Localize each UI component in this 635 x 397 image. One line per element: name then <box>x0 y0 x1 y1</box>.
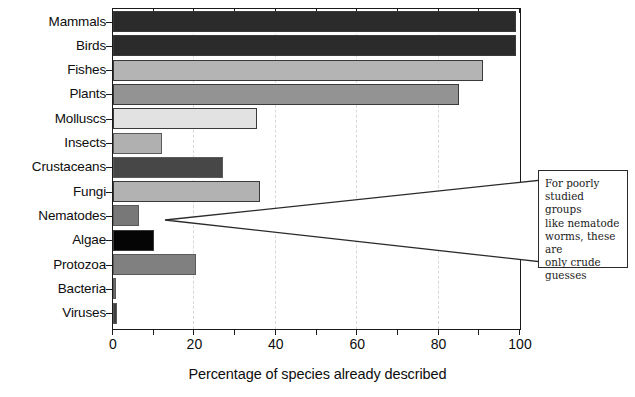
tick-top-100 <box>519 8 520 13</box>
category-label-fungi: Fungi <box>73 184 106 199</box>
category-label-protozoa: Protozoa <box>53 257 106 272</box>
tick-bottom-30 <box>234 330 235 335</box>
x-tick-label-0: 0 <box>109 336 117 352</box>
axis-line-right <box>520 8 521 330</box>
axis-line-bottom <box>112 329 521 330</box>
annotation-line: For poorly <box>545 177 622 190</box>
category-label-crustaceans: Crustaceans <box>32 159 106 174</box>
x-tick-label-60: 60 <box>349 336 365 352</box>
x-tick-label-20: 20 <box>187 336 203 352</box>
y-tick-protozoa <box>106 265 112 266</box>
bar-algae <box>113 230 154 251</box>
category-label-insects: Insects <box>64 135 106 150</box>
x-tick-label-40: 40 <box>268 336 284 352</box>
tick-bottom-40 <box>275 330 276 335</box>
bar-bacteria <box>113 278 116 299</box>
category-label-nematodes: Nematodes <box>38 208 106 223</box>
bar-molluscs <box>113 108 257 129</box>
x-tick-label-100: 100 <box>508 336 531 352</box>
x-axis-title: Percentage of species already described <box>0 366 635 382</box>
category-label-mammals: Mammals <box>49 14 106 29</box>
gridline-60 <box>356 9 357 329</box>
category-label-molluscs: Molluscs <box>55 111 106 126</box>
bar-nematodes <box>113 205 139 226</box>
y-tick-nematodes <box>106 216 112 217</box>
y-tick-fishes <box>106 70 112 71</box>
tick-bottom-80 <box>438 330 439 335</box>
callout-pointer-icon <box>160 180 542 272</box>
tick-bottom-20 <box>193 330 194 335</box>
annotation-line: worms, these are <box>545 230 622 256</box>
annotation-callout-box: For poorlystudied groupslike nematodewor… <box>538 170 628 268</box>
plot-area <box>112 8 521 330</box>
category-label-viruses: Viruses <box>62 305 106 320</box>
tick-bottom-0 <box>112 330 113 335</box>
annotation-callout-text: For poorlystudied groupslike nematodewor… <box>545 177 622 283</box>
axis-line-top <box>112 8 521 9</box>
bar-crustaceans <box>113 157 223 178</box>
bar-fishes <box>113 60 483 81</box>
tick-bottom-90 <box>478 330 479 335</box>
y-tick-fungi <box>106 192 112 193</box>
category-label-birds: Birds <box>76 38 106 53</box>
y-tick-plants <box>106 94 112 95</box>
tick-bottom-100 <box>519 330 520 335</box>
y-tick-viruses <box>106 313 112 314</box>
y-tick-molluscs <box>106 119 112 120</box>
chart-screenshot: MammalsBirdsFishesPlantsMolluscsInsectsC… <box>0 0 635 397</box>
bar-birds <box>113 35 516 56</box>
category-label-algae: Algae <box>72 232 106 247</box>
gridline-40 <box>275 9 276 329</box>
category-label-bacteria: Bacteria <box>58 281 106 296</box>
tick-bottom-60 <box>356 330 357 335</box>
y-tick-mammals <box>106 22 112 23</box>
y-tick-bacteria <box>106 289 112 290</box>
tick-bottom-10 <box>153 330 154 335</box>
annotation-line: studied groups <box>545 190 622 216</box>
bar-insects <box>113 133 162 154</box>
annotation-line: guesses <box>545 269 622 282</box>
category-label-plants: Plants <box>69 86 106 101</box>
tick-bottom-50 <box>316 330 317 335</box>
y-tick-crustaceans <box>106 167 112 168</box>
y-tick-algae <box>106 240 112 241</box>
bar-viruses <box>113 303 117 324</box>
y-tick-birds <box>106 46 112 47</box>
bar-plants <box>113 84 459 105</box>
y-tick-insects <box>106 143 112 144</box>
annotation-line: only crude <box>545 256 622 269</box>
tick-bottom-70 <box>397 330 398 335</box>
x-tick-label-80: 80 <box>431 336 447 352</box>
annotation-line: like nematode <box>545 217 622 230</box>
category-label-fishes: Fishes <box>67 62 106 77</box>
bar-mammals <box>113 11 516 32</box>
gridline-80 <box>438 9 439 329</box>
